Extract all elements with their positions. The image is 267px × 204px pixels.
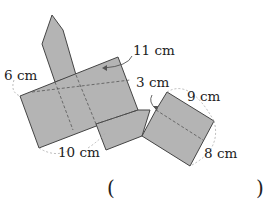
label-10cm: 10 cm — [58, 146, 100, 160]
answer-close-paren: ) — [256, 178, 264, 198]
label-11cm: 11 cm — [133, 44, 175, 58]
label-3cm: 3 cm — [136, 76, 169, 90]
top-flap — [42, 15, 76, 82]
net-diagram — [0, 0, 267, 204]
label-8cm: 8 cm — [204, 147, 237, 161]
answer-open-paren: ( — [107, 178, 115, 198]
label-9cm: 9 cm — [187, 90, 220, 104]
label-6cm: 6 cm — [4, 69, 37, 83]
